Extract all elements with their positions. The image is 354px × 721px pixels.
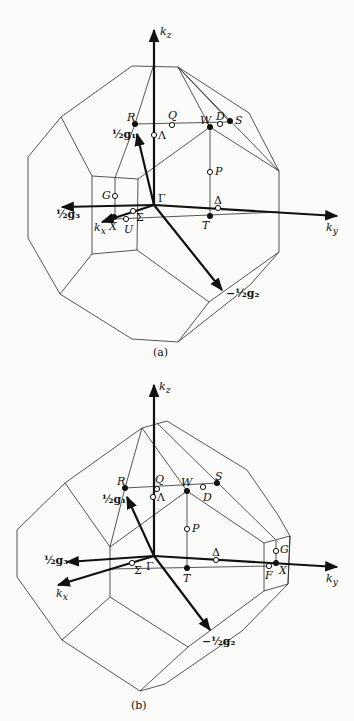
- diagram-drawing: [0, 0, 354, 721]
- r-point-label-b: R: [117, 476, 125, 487]
- delta-point-label-b: Δ: [212, 547, 220, 558]
- kx-axis-label-b: kx: [56, 588, 68, 601]
- f-point-label-b: F: [265, 570, 273, 581]
- t-point-label-b: T: [183, 573, 190, 584]
- caption-a: (a): [153, 347, 168, 358]
- kz-axis-label-a: kz: [160, 26, 172, 39]
- ky-axis-label-b: ky: [326, 573, 338, 586]
- lambda-point-label-a: Λ: [158, 130, 166, 141]
- kz-axis-label-b: kz: [159, 381, 171, 394]
- g-point-label-b: G: [280, 544, 289, 555]
- x-point-label-b: X: [279, 565, 287, 576]
- brillouin-zone-figure: kz ky kx ½g₁ −½g₂ ½g₃ Γ R Q W D S Λ P Δ …: [0, 0, 354, 721]
- kx-axis-label-a: kx: [94, 222, 106, 235]
- q-point-label-b: Q: [155, 474, 164, 485]
- t-point-label-a: T: [202, 220, 209, 231]
- caption-b: (b): [131, 700, 147, 711]
- s-point-label-b: S: [215, 471, 223, 482]
- minus-half-g2-label-a: −½g₂: [226, 288, 259, 299]
- s-point-label-a: S: [235, 115, 243, 126]
- minus-half-g2-label-b: −½g₂: [202, 636, 235, 647]
- delta-point-label-a: Δ: [214, 195, 222, 206]
- r-point-label-a: R: [127, 112, 135, 123]
- panel-b-axes: [58, 385, 337, 630]
- sigma-point-label-b: Σ: [134, 565, 142, 576]
- ky-axis-label-a: ky: [326, 222, 338, 235]
- lambda-point-label-b: Λ: [157, 492, 165, 503]
- d-point-label-a: D: [216, 111, 225, 122]
- g-point-label-a: G: [102, 190, 111, 201]
- half-g1-label-a: ½g₁: [112, 129, 136, 140]
- gamma-point-label-a: Γ: [158, 193, 166, 204]
- p-point-label-a: P: [215, 166, 222, 177]
- sigma-point-label-a: Σ: [136, 212, 144, 223]
- panel-a-axes: [62, 30, 337, 290]
- p-point-label-b: P: [192, 523, 199, 534]
- half-g3-label-b: ½g₃: [44, 555, 68, 566]
- half-g1-label-b: ½g₁: [102, 494, 126, 505]
- x-point-label-a: X: [109, 221, 117, 232]
- q-point-label-a: Q: [168, 110, 177, 121]
- w-point-label-a: W: [200, 115, 211, 126]
- d-point-label-b: D: [203, 492, 212, 503]
- u-point-label-a: U: [124, 224, 133, 235]
- w-point-label-b: W: [181, 477, 192, 488]
- gamma-point-label-b: Γ: [146, 561, 154, 572]
- half-g3-label-a: ½g₃: [56, 209, 80, 220]
